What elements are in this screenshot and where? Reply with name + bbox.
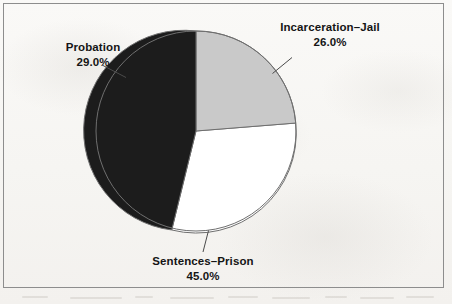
slice-label-incarceration-jail: Incarceration–Jail 26.0%	[255, 20, 405, 50]
slice-label-probation-value: 29.0%	[38, 55, 148, 70]
slice-label-sentences-prison-value: 45.0%	[128, 269, 278, 284]
slice-label-probation: Probation 29.0%	[38, 40, 148, 70]
slice-label-probation-name: Probation	[38, 40, 148, 55]
chart-plot-area: Incarceration–Jail 26.0% Probation 29.0%…	[0, 0, 452, 304]
leader-line-sentences-prison	[203, 231, 209, 253]
slice-label-incarceration-jail-value: 26.0%	[255, 35, 405, 50]
leader-line-incarceration-jail	[273, 58, 293, 74]
slice-label-sentences-prison-name: Sentences–Prison	[128, 254, 278, 269]
slice-label-incarceration-jail-name: Incarceration–Jail	[255, 20, 405, 35]
slice-label-sentences-prison: Sentences–Prison 45.0%	[128, 254, 278, 284]
pie-chart-figure: Incarceration–Jail 26.0% Probation 29.0%…	[0, 0, 452, 304]
